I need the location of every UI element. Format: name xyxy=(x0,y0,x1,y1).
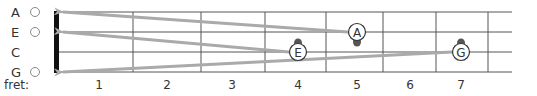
fret-number: 7 xyxy=(457,78,465,92)
note-marker-E: E xyxy=(290,39,307,61)
nut xyxy=(54,11,59,73)
open-string-circle-icon xyxy=(31,68,40,77)
frets xyxy=(54,11,488,73)
string-label: A xyxy=(11,5,20,20)
svg-text:G: G xyxy=(456,46,465,60)
note-marker-A: A xyxy=(349,24,366,47)
svg-text:A: A xyxy=(353,26,362,40)
arrow-G xyxy=(63,52,452,72)
fret-number: 2 xyxy=(163,78,171,92)
strings xyxy=(57,12,512,72)
svg-text:E: E xyxy=(294,46,302,60)
fret-number: 3 xyxy=(228,78,236,92)
fret-number: 4 xyxy=(294,78,302,92)
fret-number: 5 xyxy=(353,78,361,92)
arrow-A xyxy=(63,12,348,32)
arrows xyxy=(63,12,452,72)
fret-label: fret: xyxy=(4,78,29,92)
ukulele-fretboard-diagram: AEG AECGfret:1234567 xyxy=(0,0,537,96)
string-label: C xyxy=(11,45,20,60)
arrow-E xyxy=(63,32,289,52)
note-marker-G: G xyxy=(453,39,470,61)
string-label: E xyxy=(11,25,19,40)
fret-number: 6 xyxy=(406,78,414,92)
open-string-circle-icon xyxy=(31,28,40,37)
open-string-circle-icon xyxy=(31,8,40,17)
fret-number: 1 xyxy=(95,78,103,92)
